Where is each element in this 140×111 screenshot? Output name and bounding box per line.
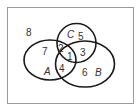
set-a-label: A	[43, 66, 51, 77]
region-a-b-c-value: 1	[67, 51, 73, 62]
venn-diagram: 8 7 2 1 4 5 3 6 A B C	[0, 0, 140, 111]
region-a-only-value: 7	[42, 46, 48, 57]
region-a-c-value: 2	[58, 43, 64, 54]
region-outside-value: 8	[26, 27, 32, 38]
set-c-label: C	[67, 29, 75, 40]
region-a-b-value: 4	[59, 63, 65, 74]
set-b-label: B	[95, 67, 102, 78]
region-c-only-value: 5	[78, 31, 84, 42]
region-b-only-value: 6	[82, 67, 88, 78]
region-b-c-value: 3	[80, 47, 86, 58]
